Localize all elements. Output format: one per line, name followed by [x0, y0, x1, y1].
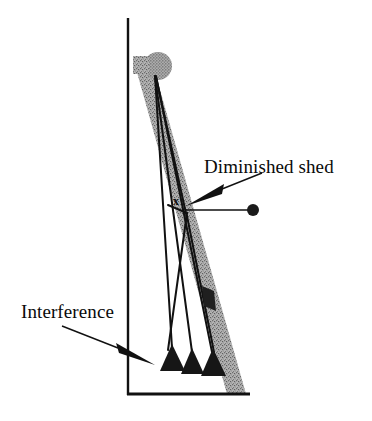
dark-circle-marker: [247, 204, 259, 216]
diagram-canvas: [0, 0, 372, 421]
cone-left: [160, 344, 185, 371]
label-interference: Interference: [21, 302, 114, 321]
figure-root: Diminished shed Interference x: [0, 0, 372, 421]
return-line-1: [168, 213, 187, 350]
arrow-diminished-shed: [186, 173, 262, 206]
label-point-x: x: [173, 195, 179, 207]
label-diminished-shed: Diminished shed: [204, 157, 334, 176]
warp-line-group: [155, 76, 212, 352]
pointer-leader-group: [186, 204, 259, 216]
cone-middle: [181, 348, 204, 374]
arrow-interference: [62, 326, 155, 365]
